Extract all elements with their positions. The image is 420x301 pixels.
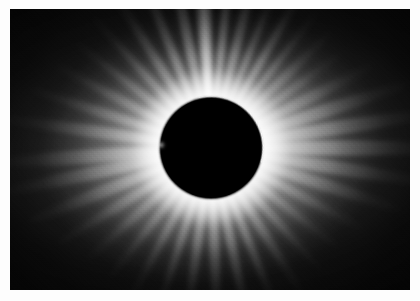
photo-frame <box>10 9 410 290</box>
eclipse-photograph: Total Solar Eclipse — Solar Corona Black… <box>0 0 420 301</box>
solar-prominence <box>156 142 165 149</box>
